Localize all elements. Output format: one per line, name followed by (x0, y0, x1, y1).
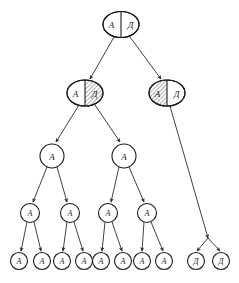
tree-edge (34, 222, 41, 251)
tree-edge (21, 222, 27, 251)
node-label: A (139, 257, 145, 266)
tree-node-l5-6: A (115, 253, 132, 270)
tree-canvas: AДAДAДAAAAAAAAAAAAAAДД (0, 0, 239, 283)
tree-node-l4-1: A (21, 204, 40, 223)
tree-edge (197, 238, 208, 251)
tree-node-root: AД (103, 12, 139, 38)
tree-edge (102, 222, 105, 251)
tree-node-l5-8: A (156, 253, 173, 270)
tree-edge (112, 222, 122, 251)
tree-node-l4-2: A (61, 204, 80, 223)
tree-node-l5-4: A (76, 253, 93, 270)
node-label: A (59, 257, 65, 266)
node-label: Д (192, 257, 199, 266)
tree-edge (111, 167, 119, 202)
node-label-left: A (72, 89, 79, 99)
tree-node-l2-left: AД (67, 79, 104, 107)
tree-node-l5-7: A (134, 253, 151, 270)
node-label: Д (217, 257, 224, 266)
node-label: A (98, 257, 104, 266)
tree-node-l5-1: A (11, 253, 28, 270)
tree-edge (33, 167, 47, 202)
tree-node-l3-right: A (112, 144, 136, 168)
tree-edge (74, 222, 83, 251)
node-label-left: A (154, 89, 161, 99)
tree-edge (130, 37, 161, 79)
node-label: A (120, 257, 126, 266)
tree-node-l4-4: A (138, 204, 157, 223)
tree-node-l4-3: A (99, 204, 118, 223)
tree-node-l3-left: A (40, 144, 64, 168)
tree-node-l5-3: A (54, 253, 71, 270)
node-label: A (105, 209, 111, 218)
tree-node-l5-d2: Д (213, 253, 230, 270)
tree-edge (129, 167, 144, 202)
node-label: A (144, 209, 150, 218)
tree-node-l5-5: A (93, 253, 110, 270)
tree-edge (90, 37, 114, 79)
node-label: A (48, 152, 55, 162)
tree-edge (151, 222, 163, 251)
tree-edge (208, 238, 220, 251)
tree-node-l5-2: A (34, 253, 51, 270)
node-label: A (27, 209, 33, 218)
node-label: A (120, 152, 127, 162)
tree-edge (95, 105, 120, 142)
node-label: A (67, 209, 73, 218)
tree-edge (170, 106, 208, 238)
tree-edge (56, 105, 79, 142)
derivation-tree-figure: AДAДAДAAAAAAAAAAAAAAДД (0, 0, 239, 283)
tree-edge (63, 222, 67, 251)
tree-node-l2-right: AД (148, 79, 185, 107)
node-label: A (16, 257, 22, 266)
tree-node-l5-d1: Д (188, 253, 205, 270)
node-label: A (81, 257, 87, 266)
node-label: A (161, 257, 167, 266)
node-label: A (39, 257, 45, 266)
nodes-layer: AДAДAДAAAAAAAAAAAAAAДД (11, 12, 230, 270)
node-label-left: A (108, 20, 115, 30)
tree-edge (57, 167, 67, 202)
tree-edge (142, 222, 144, 251)
